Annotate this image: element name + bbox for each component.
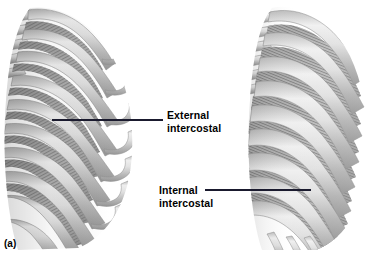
label-internal-line1: Internal bbox=[159, 184, 213, 197]
left-rib-cage bbox=[0, 0, 145, 256]
figure-container: External intercostal Internal intercosta… bbox=[0, 0, 375, 256]
label-external-line1: External bbox=[167, 109, 221, 122]
right-rib-cage bbox=[240, 0, 375, 256]
label-external-intercostal: External intercostal bbox=[167, 109, 221, 134]
label-internal-intercostal: Internal intercostal bbox=[159, 184, 213, 209]
figure-caption: (a) bbox=[4, 238, 16, 249]
label-internal-line2: intercostal bbox=[159, 197, 213, 210]
label-external-line2: intercostal bbox=[167, 122, 221, 135]
